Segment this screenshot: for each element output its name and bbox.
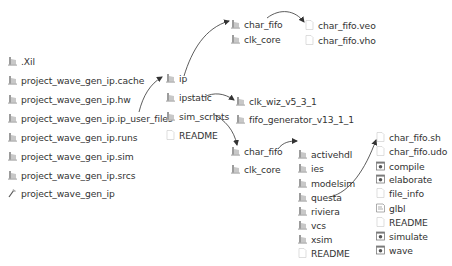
arrow-sim-scripts-to-char-fifo bbox=[213, 114, 237, 145]
arrow-ip-user-files-to-contents bbox=[139, 77, 162, 112]
arrow-ip-to-char-fifo bbox=[184, 21, 229, 76]
connector-arrows bbox=[0, 0, 452, 266]
arrow-char-fifo-to-files bbox=[267, 12, 304, 22]
arrow-sim-char-fifo-to-contents bbox=[278, 141, 297, 149]
arrow-ipstatic-to-clk-wiz bbox=[204, 94, 234, 100]
arrow-questa-to-files bbox=[330, 140, 376, 197]
